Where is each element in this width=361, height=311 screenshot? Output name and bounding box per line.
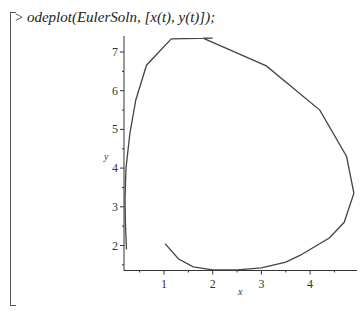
y-tick-label: 6 [112,84,118,98]
y-tick-label: 5 [112,122,118,136]
x-tick-label: 3 [258,277,264,291]
axes [124,36,357,271]
plot[interactable]: 1234 234567 x y [0,0,361,311]
y-ticks: 234567 [112,45,124,265]
y-tick-label: 7 [112,45,118,59]
y-tick-label: 4 [112,161,118,175]
solution-curve [125,38,354,270]
x-tick-label: 2 [210,277,216,291]
y-axis-label: y [103,151,109,162]
x-axis-label: x [237,286,243,297]
x-tick-label: 4 [307,277,313,291]
y-tick-label: 2 [112,239,118,253]
y-tick-label: 3 [112,200,118,214]
x-tick-label: 1 [161,277,167,291]
